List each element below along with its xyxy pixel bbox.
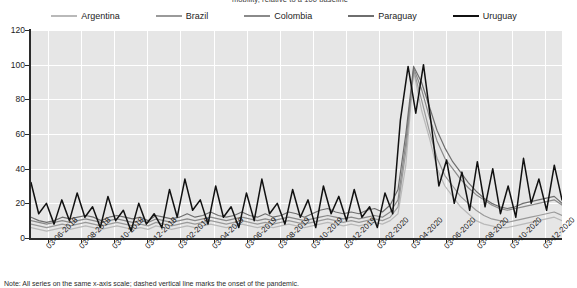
chart-title-text: mobility, relative to a 100 baseline: [232, 0, 348, 4]
legend-swatch-icon: [453, 15, 479, 17]
y-axis-label: 0: [0, 234, 25, 242]
y-axis-label: 40: [0, 165, 25, 173]
chart-footnote-text: Note: All series on the same x-axis scal…: [4, 280, 564, 288]
legend-swatch-icon: [51, 15, 77, 17]
legend-label: Paraguay: [378, 12, 417, 21]
y-axis-tick: [25, 134, 30, 135]
legend-swatch-icon: [244, 15, 270, 17]
legend-label: Brazil: [186, 12, 209, 21]
y-axis-tick: [25, 65, 30, 66]
chart-footnote-clipped: Note: All series on the same x-axis scal…: [4, 280, 564, 288]
y-axis-tick: [25, 169, 30, 170]
legend-swatch-icon: [348, 15, 374, 17]
chart-title-clipped: mobility, relative to a 100 baseline: [0, 0, 568, 7]
y-axis-label: 60: [0, 130, 25, 138]
y-axis-tick: [25, 238, 30, 239]
series-lines: [31, 30, 562, 238]
y-axis-tick: [25, 30, 30, 31]
legend-item-colombia[interactable]: Colombia: [244, 12, 312, 21]
series-line-uruguay: [31, 65, 562, 231]
y-axis-label: 80: [0, 95, 25, 103]
legend-label: Argentina: [81, 12, 120, 21]
legend-label: Colombia: [274, 12, 312, 21]
legend-item-brazil[interactable]: Brazil: [156, 12, 209, 21]
legend-item-uruguay[interactable]: Uruguay: [453, 12, 517, 21]
y-axis-label: 120: [0, 26, 25, 34]
y-axis-label: 20: [0, 199, 25, 207]
legend-swatch-icon: [156, 15, 182, 17]
legend-item-argentina[interactable]: Argentina: [51, 12, 120, 21]
chart-legend: ArgentinaBrazilColombiaParaguayUruguay: [0, 9, 568, 23]
y-axis-tick: [25, 99, 30, 100]
y-axis-tick: [25, 203, 30, 204]
legend-item-paraguay[interactable]: Paraguay: [348, 12, 417, 21]
y-axis-label: 100: [0, 61, 25, 69]
legend-label: Uruguay: [483, 12, 517, 21]
